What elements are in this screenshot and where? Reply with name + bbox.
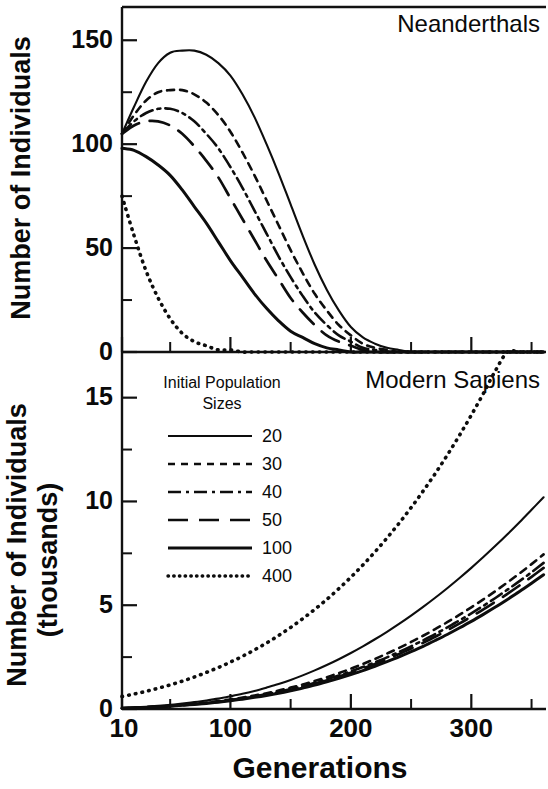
curve-modern-sapiens-400	[122, 351, 544, 697]
legend-label-400: 400	[262, 566, 292, 586]
sapiens-y-ticklabels: 051015	[85, 382, 113, 721]
neanderthals-y-ticks	[122, 40, 137, 352]
panel-title-modern-sapiens: Modern Sapiens	[365, 366, 540, 393]
sapiens-y-ticks	[122, 398, 137, 709]
x-ticklabel: 100	[209, 713, 252, 743]
figure-container: 050100150 Neanderthals 051015 1010020030…	[0, 0, 548, 789]
y-ticklabel: 5	[99, 590, 113, 618]
neanderthals-curves	[122, 50, 544, 352]
y-axis-title-sapiens-line2: (thousands)	[33, 483, 63, 638]
y-ticklabel: 10	[85, 486, 113, 514]
panel-title-neanderthals: Neanderthals	[397, 10, 540, 37]
curve-neanderthals-20	[122, 50, 544, 352]
legend-label-40: 40	[262, 482, 282, 502]
sapiens-curves	[122, 351, 544, 709]
legend-label-50: 50	[262, 510, 282, 530]
legend-entries: 20304050100400	[168, 426, 292, 586]
neanderthals-y-ticklabels: 050100150	[71, 25, 113, 365]
y-ticklabel: 0	[99, 337, 113, 365]
curve-neanderthals-40	[122, 108, 544, 352]
population-simulation-chart: 050100150 Neanderthals 051015 1010020030…	[0, 0, 548, 789]
neanderthals-x-ticks	[122, 337, 532, 352]
curve-neanderthals-400	[122, 196, 544, 352]
legend-label-100: 100	[262, 538, 292, 558]
y-ticklabel: 15	[85, 382, 113, 410]
y-ticklabel: 50	[85, 233, 113, 261]
sapiens-x-ticklabels: 10100200300	[110, 713, 493, 743]
x-axis-title: Generations	[232, 751, 407, 784]
legend-title-line2: Sizes	[202, 395, 241, 412]
legend: Initial Population Sizes 20304050100400	[163, 374, 292, 586]
legend-label-30: 30	[262, 454, 282, 474]
panel-neanderthals: 050100150 Neanderthals	[71, 7, 546, 365]
curve-neanderthals-30	[122, 90, 544, 352]
y-ticklabel: 150	[71, 25, 113, 53]
curve-neanderthals-100	[122, 148, 544, 352]
y-axis-title-neanderthals: Number of Individuals	[6, 36, 36, 320]
panel-modern-sapiens: 051015 10100200300 Modern Sapiens	[85, 351, 546, 744]
legend-title-line1: Initial Population	[163, 374, 280, 391]
y-ticklabel: 100	[71, 129, 113, 157]
y-axis-title-sapiens-line1: Number of Individuals	[2, 403, 32, 687]
legend-label-20: 20	[262, 426, 282, 446]
curve-modern-sapiens-40	[122, 563, 544, 708]
x-ticklabel: 200	[329, 713, 372, 743]
x-ticklabel: 300	[450, 713, 493, 743]
x-ticklabel: 10	[110, 713, 139, 743]
curve-modern-sapiens-50	[122, 568, 544, 708]
